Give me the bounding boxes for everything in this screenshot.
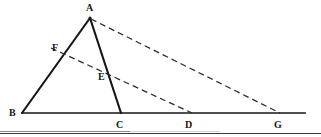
segment-ab: [22, 18, 90, 113]
scan-artifact-line-left: [0, 131, 130, 132]
scan-artifact-line-mid: [130, 131, 220, 132]
geometry-figure: A B C D E F G: [0, 0, 321, 137]
vertex-dot-a: [89, 17, 92, 20]
segment-ac: [90, 18, 121, 113]
vertex-label-b: B: [9, 108, 16, 118]
segment-ag-dashed: [91, 19, 280, 113]
vertex-label-c: C: [116, 120, 123, 130]
geometry-canvas: [0, 0, 321, 137]
scan-artifact-line-bottom: [0, 133, 321, 134]
vertex-label-a: A: [86, 3, 93, 13]
scan-artifact-band: [0, 130, 321, 135]
vertex-label-g: G: [274, 120, 282, 130]
vertex-label-d: D: [185, 120, 192, 130]
segment-fd-dashed: [51, 48, 192, 113]
vertex-label-e: E: [98, 72, 105, 82]
vertex-label-f: F: [52, 43, 58, 53]
